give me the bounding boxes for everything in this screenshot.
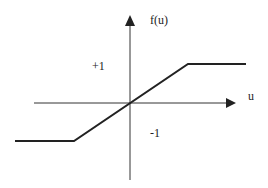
y-axis-label: f(u) (150, 13, 168, 27)
saturation-diagram: f(u) u +1 -1 (0, 0, 268, 188)
x-axis-label: u (248, 89, 254, 103)
upper-level-label: +1 (92, 59, 105, 73)
x-axis-arrow-icon (226, 98, 236, 108)
y-axis-arrow-icon (125, 15, 135, 26)
lower-level-label: -1 (150, 126, 160, 140)
